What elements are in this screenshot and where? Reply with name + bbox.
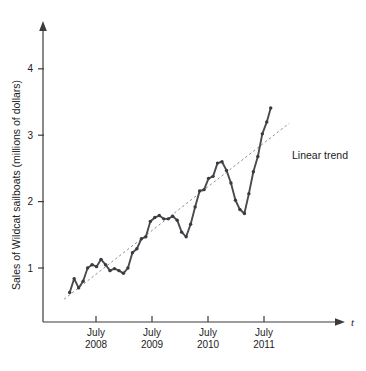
data-point-marker [126, 266, 129, 269]
chart-background [0, 0, 366, 371]
data-point-marker [229, 181, 232, 184]
y-tick-label: 3 [27, 130, 33, 141]
data-point-marker [135, 247, 138, 250]
x-tick-label-month: July [255, 327, 273, 338]
sales-line-chart: 1234 Sales of Wildcat sailboats (million… [0, 0, 366, 371]
data-point-marker [95, 265, 98, 268]
data-point-marker [153, 216, 156, 219]
data-point-marker [117, 269, 120, 272]
linear-trend-annotation: Linear trend [292, 149, 348, 161]
data-point-marker [269, 106, 272, 109]
x-tick-label-year: 2008 [85, 339, 108, 350]
chart-figure: 1234 Sales of Wildcat sailboats (million… [0, 0, 366, 371]
y-tick-label: 2 [27, 196, 33, 207]
data-point-marker [140, 237, 143, 240]
data-point-marker [193, 205, 196, 208]
data-point-marker [72, 277, 75, 280]
data-point-marker [113, 267, 116, 270]
data-point-marker [167, 217, 170, 220]
data-point-marker [243, 212, 246, 215]
data-point-marker [234, 199, 237, 202]
y-tick-label: 4 [27, 63, 33, 74]
data-point-marker [171, 215, 174, 218]
data-point-marker [122, 272, 125, 275]
data-point-marker [149, 220, 152, 223]
data-point-marker [252, 170, 255, 173]
data-point-marker [256, 155, 259, 158]
y-axis-title: Sales of Wildcat sailboats (millions of … [10, 80, 22, 290]
data-point-marker [81, 280, 84, 283]
data-point-marker [202, 188, 205, 191]
data-point-marker [225, 169, 228, 172]
data-point-marker [104, 263, 107, 266]
data-point-marker [86, 266, 89, 269]
data-point-marker [108, 269, 111, 272]
y-tick-label: 1 [27, 263, 33, 274]
data-point-marker [216, 161, 219, 164]
data-point-marker [144, 235, 147, 238]
data-point-marker [238, 208, 241, 211]
data-point-marker [184, 235, 187, 238]
data-point-marker [90, 263, 93, 266]
data-point-marker [77, 286, 80, 289]
data-point-marker [158, 214, 161, 217]
data-point-marker [131, 251, 134, 254]
data-point-marker [220, 160, 223, 163]
data-point-marker [247, 192, 250, 195]
data-point-marker [207, 177, 210, 180]
data-point-marker [211, 175, 214, 178]
data-point-marker [189, 222, 192, 225]
data-point-marker [180, 230, 183, 233]
data-point-marker [162, 217, 165, 220]
data-point-marker [265, 120, 268, 123]
data-point-marker [176, 218, 179, 221]
x-tick-label-month: July [143, 327, 161, 338]
data-point-marker [68, 291, 71, 294]
data-point-marker [198, 189, 201, 192]
data-point-marker [261, 132, 264, 135]
x-tick-label-year: 2011 [253, 339, 275, 350]
x-tick-label-month: July [199, 327, 217, 338]
x-tick-label-month: July [87, 327, 105, 338]
x-tick-label-year: 2009 [141, 339, 164, 350]
x-tick-label-year: 2010 [197, 339, 220, 350]
data-point-marker [99, 258, 102, 261]
